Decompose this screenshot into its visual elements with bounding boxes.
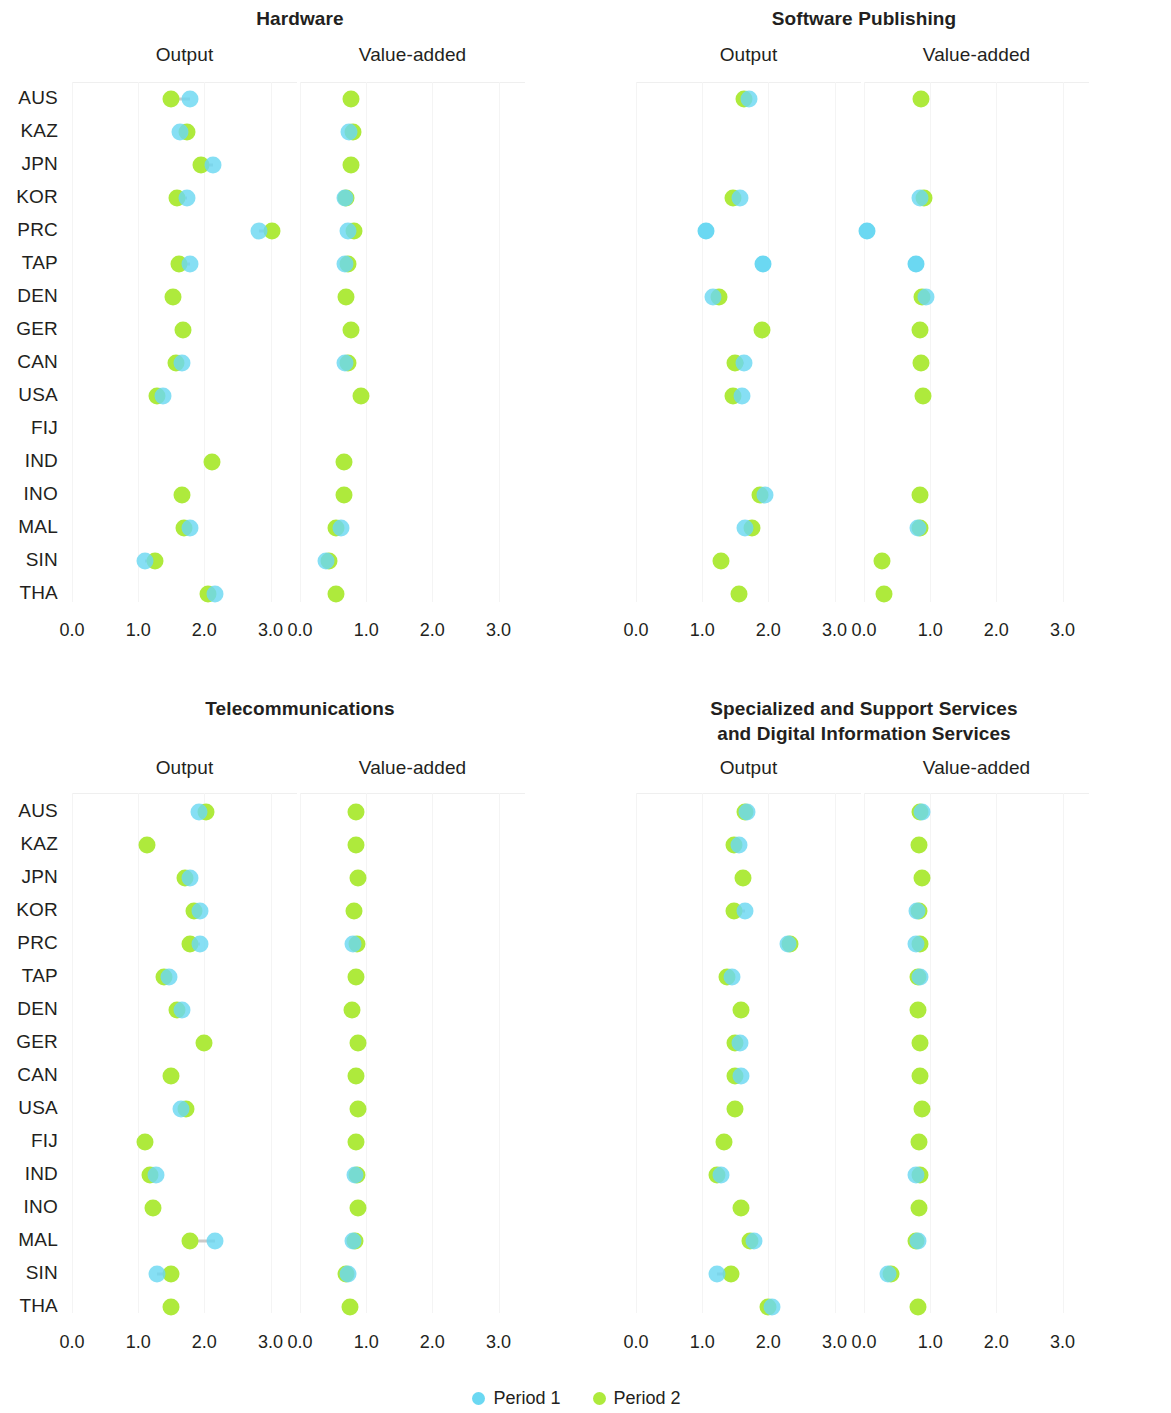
data-point-period2-ino[interactable]: [910, 1200, 927, 1217]
data-point-period2-tha[interactable]: [909, 1299, 926, 1316]
data-point-period2-usa[interactable]: [914, 388, 931, 405]
data-point-period2-fij[interactable]: [716, 1134, 733, 1151]
data-point-period2-den[interactable]: [732, 1002, 749, 1019]
data-point-period2-sin[interactable]: [723, 1266, 740, 1283]
data-point-period1-can[interactable]: [173, 355, 190, 372]
data-point-period2-can[interactable]: [162, 1068, 179, 1085]
data-point-period1-aus[interactable]: [739, 804, 756, 821]
data-point-period1-den[interactable]: [917, 289, 934, 306]
data-point-period1-ino[interactable]: [757, 487, 774, 504]
data-point-period2-can[interactable]: [912, 355, 929, 372]
data-point-period1-ind[interactable]: [908, 1167, 925, 1184]
legend-item-p2[interactable]: Period 2: [593, 1388, 681, 1409]
data-point-period1-prc[interactable]: [859, 223, 876, 240]
data-point-period2-tha[interactable]: [342, 1299, 359, 1316]
data-point-period2-jpn[interactable]: [342, 157, 359, 174]
data-point-period1-prc[interactable]: [698, 223, 715, 240]
data-point-period1-aus[interactable]: [913, 804, 930, 821]
data-point-period2-ger[interactable]: [349, 1035, 366, 1052]
data-point-period1-sin[interactable]: [318, 553, 335, 570]
data-point-period1-kaz[interactable]: [731, 837, 748, 854]
data-point-period2-jpn[interactable]: [735, 870, 752, 887]
data-point-period2-den[interactable]: [338, 289, 355, 306]
legend-item-p1[interactable]: Period 1: [472, 1388, 560, 1409]
data-point-period1-sin[interactable]: [148, 1266, 165, 1283]
data-point-period1-sin[interactable]: [708, 1266, 725, 1283]
data-point-period2-ino[interactable]: [350, 1200, 367, 1217]
data-point-period2-can[interactable]: [348, 1068, 365, 1085]
data-point-period1-prc[interactable]: [250, 223, 267, 240]
data-point-period1-mal[interactable]: [333, 520, 350, 537]
data-point-period2-tha[interactable]: [327, 586, 344, 603]
data-point-period2-fij[interactable]: [137, 1134, 154, 1151]
data-point-period1-sin[interactable]: [879, 1266, 896, 1283]
data-point-period1-mal[interactable]: [746, 1233, 763, 1250]
data-point-period2-ind[interactable]: [203, 454, 220, 471]
data-point-period2-kor[interactable]: [346, 903, 363, 920]
data-point-period1-aus[interactable]: [191, 804, 208, 821]
data-point-period1-can[interactable]: [337, 355, 354, 372]
data-point-period1-ind[interactable]: [346, 1167, 363, 1184]
data-point-period1-prc[interactable]: [780, 936, 797, 953]
data-point-period1-kor[interactable]: [731, 190, 748, 207]
data-point-period1-ger[interactable]: [731, 1035, 748, 1052]
data-point-period1-ind[interactable]: [712, 1167, 729, 1184]
data-point-period2-ger[interactable]: [911, 322, 928, 339]
data-point-period2-fij[interactable]: [910, 1134, 927, 1151]
data-point-period1-can[interactable]: [735, 355, 752, 372]
data-point-period2-tha[interactable]: [875, 586, 892, 603]
data-point-period1-usa[interactable]: [733, 388, 750, 405]
data-point-period1-jpn[interactable]: [204, 157, 221, 174]
data-point-period2-sin[interactable]: [713, 553, 730, 570]
data-point-period2-den[interactable]: [165, 289, 182, 306]
data-point-period1-prc[interactable]: [344, 936, 361, 953]
data-point-period1-tha[interactable]: [206, 586, 223, 603]
data-point-period1-mal[interactable]: [206, 1233, 223, 1250]
data-point-period1-tap[interactable]: [181, 256, 198, 273]
data-point-period2-usa[interactable]: [726, 1101, 743, 1118]
data-point-period1-kaz[interactable]: [171, 124, 188, 141]
data-point-period1-mal[interactable]: [910, 1233, 927, 1250]
data-point-period2-kaz[interactable]: [348, 837, 365, 854]
data-point-period1-kor[interactable]: [908, 903, 925, 920]
data-point-period2-kaz[interactable]: [138, 837, 155, 854]
data-point-period1-tap[interactable]: [755, 256, 772, 273]
data-point-period1-kor[interactable]: [911, 190, 928, 207]
data-point-period2-ind[interactable]: [335, 454, 352, 471]
data-point-period2-fij[interactable]: [348, 1134, 365, 1151]
data-point-period2-ger[interactable]: [912, 1035, 929, 1052]
data-point-period1-can[interactable]: [733, 1068, 750, 1085]
data-point-period2-ger[interactable]: [175, 322, 192, 339]
data-point-period2-aus[interactable]: [348, 804, 365, 821]
data-point-period1-aus[interactable]: [182, 91, 199, 108]
data-point-period2-kaz[interactable]: [910, 837, 927, 854]
data-point-period2-usa[interactable]: [350, 1101, 367, 1118]
data-point-period1-sin[interactable]: [340, 1266, 357, 1283]
data-point-period2-ger[interactable]: [753, 322, 770, 339]
data-point-period2-usa[interactable]: [352, 388, 369, 405]
data-point-period1-prc[interactable]: [191, 936, 208, 953]
data-point-period2-mal[interactable]: [181, 1233, 198, 1250]
data-point-period2-jpn[interactable]: [350, 870, 367, 887]
data-point-period1-jpn[interactable]: [181, 870, 198, 887]
data-point-period1-den[interactable]: [705, 289, 722, 306]
data-point-period1-kaz[interactable]: [340, 124, 357, 141]
data-point-period1-ind[interactable]: [148, 1167, 165, 1184]
data-point-period2-ino[interactable]: [912, 487, 929, 504]
data-point-period1-prc[interactable]: [339, 223, 356, 240]
data-point-period2-sin[interactable]: [873, 553, 890, 570]
data-point-period2-ger[interactable]: [196, 1035, 213, 1052]
data-point-period1-kor[interactable]: [191, 903, 208, 920]
data-point-period2-tap[interactable]: [348, 969, 365, 986]
data-point-period1-aus[interactable]: [740, 91, 757, 108]
data-point-period1-mal[interactable]: [737, 520, 754, 537]
data-point-period1-tap[interactable]: [908, 256, 925, 273]
data-point-period2-tha[interactable]: [163, 1299, 180, 1316]
data-point-period1-mal[interactable]: [344, 1233, 361, 1250]
data-point-period1-tap[interactable]: [160, 969, 177, 986]
data-point-period2-can[interactable]: [912, 1068, 929, 1085]
data-point-period1-kor[interactable]: [337, 190, 354, 207]
data-point-period2-tha[interactable]: [730, 586, 747, 603]
data-point-period1-kor[interactable]: [737, 903, 754, 920]
data-point-period2-aus[interactable]: [163, 91, 180, 108]
